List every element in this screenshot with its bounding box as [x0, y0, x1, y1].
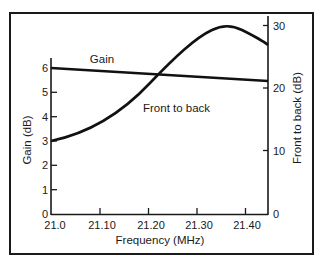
y-axis-title: Gain (dB) — [21, 115, 33, 164]
y-tick-labels-left: 0 1 2 3 4 5 6 — [42, 62, 48, 220]
front-to-back-series-line — [51, 26, 268, 141]
gain-series-label: Gain — [90, 53, 114, 65]
y-ticks-left — [51, 68, 57, 190]
y2-tick-label: 20 — [273, 82, 285, 94]
x-tick-label: 21.10 — [88, 219, 116, 231]
y2-tick-label: 0 — [273, 208, 279, 220]
y-tick-label: 5 — [42, 86, 48, 98]
x-tick-label: 21.0 — [44, 219, 65, 231]
x-tick-labels: 21.0 21.10 21.20 21.30 21.40 — [44, 219, 260, 231]
y2-tick-label: 10 — [273, 145, 285, 157]
front-to-back-series-label: Front to back — [143, 102, 210, 114]
y2-axis-title: Front to back (dB) — [291, 72, 303, 164]
x-axis-title: Frequency (MHz) — [116, 234, 205, 246]
y-tick-label: 3 — [42, 135, 48, 147]
y-tick-label: 6 — [42, 62, 48, 74]
x-ticks — [100, 208, 246, 214]
y-tick-label: 1 — [42, 184, 48, 196]
y2-tick-label: 30 — [273, 20, 285, 32]
x-tick-label: 21.20 — [137, 219, 165, 231]
y-tick-label: 4 — [42, 111, 48, 123]
x-tick-label: 21.40 — [233, 219, 261, 231]
chart-plot: 0 1 2 3 4 5 6 0 10 20 30 21.0 — [0, 0, 322, 265]
x-tick-label: 21.30 — [185, 219, 213, 231]
chart-figure: 0 1 2 3 4 5 6 0 10 20 30 21.0 — [0, 0, 322, 265]
y-tick-label: 2 — [42, 159, 48, 171]
y-tick-labels-right: 0 10 20 30 — [273, 20, 285, 221]
